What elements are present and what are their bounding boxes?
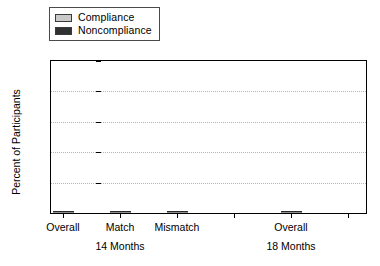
xtick-mark-5	[291, 213, 292, 218]
legend-swatch-compliance	[55, 14, 72, 22]
stacked-bar-chart: Compliance Noncompliance	[0, 0, 380, 266]
xtick-mark-3	[177, 213, 178, 218]
ytick-mark-40	[96, 152, 101, 153]
legend-item-noncompliance: Noncompliance	[55, 24, 152, 37]
xtick-label-mismatch: Mismatch	[132, 221, 222, 233]
xtick-mark-6	[348, 213, 349, 218]
plot-area: 100 80 60 40 20 0	[50, 60, 367, 214]
ytick-mark-60	[96, 122, 101, 123]
legend-swatch-noncompliance	[55, 27, 72, 35]
legend-label-noncompliance: Noncompliance	[78, 24, 152, 37]
legend-item-compliance: Compliance	[55, 11, 152, 24]
y-axis-label: Percent of Participants	[10, 67, 22, 217]
xtick-mark-2	[120, 213, 121, 218]
ytick-mark-80	[96, 91, 101, 92]
group-label-14-months: 14 Months	[60, 240, 180, 252]
plot-inner	[51, 61, 366, 213]
chart-legend: Compliance Noncompliance	[49, 7, 160, 41]
xtick-mark-4	[234, 213, 235, 218]
legend-label-compliance: Compliance	[78, 11, 134, 24]
xtick-label-overall-18: Overall	[246, 221, 336, 233]
ytick-mark-100	[96, 61, 101, 62]
xtick-mark-1	[63, 213, 64, 218]
ytick-mark-20	[96, 183, 101, 184]
group-label-18-months: 18 Months	[231, 240, 351, 252]
ytick-mark-0	[96, 213, 101, 214]
